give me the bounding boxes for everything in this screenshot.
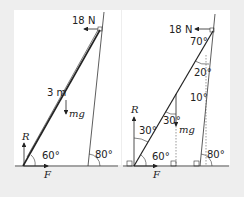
wall-line (88, 12, 104, 166)
angle-10-label: 10° (190, 92, 208, 103)
weight-label: mg (69, 108, 85, 119)
angle-80-label: 80° (207, 149, 225, 160)
angle-30-r-label: 30° (139, 125, 157, 136)
force-18n-label: 18 N (169, 24, 192, 35)
left-diagram: 18 N 3 m mg R F 60° 80° (15, 12, 118, 180)
ladder-diagrams: 18 N 3 m mg R F 60° 80° 18 N 70° 20° 10°… (0, 0, 244, 197)
right-diagram: 18 N 70° 20° 10° R 30° 30° mg F 60° 80° (123, 14, 229, 180)
reaction-label: R (21, 131, 30, 142)
friction-label: F (152, 169, 161, 180)
ladder (23, 30, 100, 166)
angle-80-label: 80° (95, 149, 113, 160)
reaction-label: R (130, 104, 139, 115)
angle-70-label: 70° (190, 36, 208, 47)
friction-label: F (43, 169, 52, 180)
angle-60-label: 60° (152, 151, 170, 162)
weight-label: mg (179, 124, 195, 135)
angle-60-label: 60° (42, 150, 60, 161)
angle-20-label: 20° (194, 67, 212, 78)
force-18n-label: 18 N (72, 15, 95, 26)
length-label: 3 m (47, 87, 66, 98)
